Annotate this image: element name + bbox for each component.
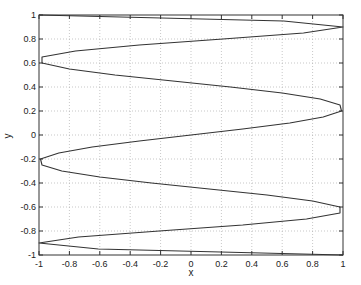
y-tick-label: -0.6 [20,202,36,212]
x-axis-label: x [189,267,194,278]
y-tick-label: 0 [31,130,36,140]
x-tick-label: 0.2 [215,259,228,269]
y-tick-label: 0.6 [23,58,36,68]
x-tick-label: 0.6 [276,259,289,269]
x-tick-label: -0.4 [122,259,138,269]
x-tick-label: 1 [340,259,345,269]
x-tick-label: 0.4 [246,259,259,269]
y-tick-label: -0.8 [20,226,36,236]
y-tick-label: -1 [28,250,36,260]
y-tick-label: 1 [31,10,36,20]
y-tick-label: -0.4 [20,178,36,188]
x-tick-label: 0.8 [306,259,319,269]
y-tick-label: 0.2 [23,106,36,116]
y-tick-label: -0.2 [20,154,36,164]
x-tick-label: -0.6 [92,259,108,269]
x-tick-label: -1 [35,259,43,269]
x-tick-label: -0.8 [62,259,78,269]
y-tick-labels: -1-0.8-0.6-0.4-0.200.20.40.60.81 [20,10,36,260]
y-axis-label: y [2,134,13,139]
y-tick-label: 0.4 [23,82,36,92]
x-tick-label: -0.2 [153,259,169,269]
y-tick-label: 0.8 [23,34,36,44]
line-chart: -1-0.8-0.6-0.4-0.200.20.40.60.81 -1-0.8-… [0,0,361,285]
